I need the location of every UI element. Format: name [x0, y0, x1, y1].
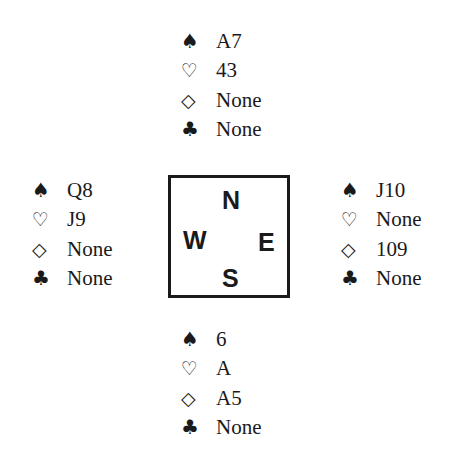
north-hearts-cards: 43	[216, 56, 237, 85]
east-spades-cards: J10	[376, 176, 405, 205]
north-hearts-row: ♡ 43	[181, 56, 262, 85]
north-spades-row: ♠ A7	[181, 27, 262, 56]
south-hand: ♠ 6 ♡ A ◇ A5 ♣ None	[181, 325, 262, 442]
east-hearts-row: ♡ None	[341, 205, 422, 234]
heart-outline-icon: ♡	[181, 56, 216, 85]
south-diamonds-row: ◇ A5	[181, 384, 262, 413]
south-diamonds-cards: A5	[216, 384, 242, 413]
east-clubs-row: ♣ None	[341, 264, 422, 293]
south-clubs-cards: None	[216, 413, 262, 442]
south-spades-row: ♠ 6	[181, 325, 262, 354]
north-diamonds-row: ◇ None	[181, 86, 262, 115]
club-icon: ♣	[181, 115, 216, 144]
heart-outline-icon: ♡	[32, 205, 67, 234]
north-clubs-row: ♣ None	[181, 115, 262, 144]
west-clubs-cards: None	[67, 264, 113, 293]
west-spades-cards: Q8	[67, 176, 93, 205]
spade-icon: ♠	[181, 27, 216, 56]
compass-west-label: W	[183, 228, 207, 253]
east-spades-row: ♠ J10	[341, 176, 422, 205]
west-clubs-row: ♣ None	[32, 264, 113, 293]
east-hand: ♠ J10 ♡ None ◇ 109 ♣ None	[341, 176, 422, 293]
club-icon: ♣	[32, 264, 67, 293]
east-hearts-cards: None	[376, 205, 422, 234]
west-hand: ♠ Q8 ♡ J9 ◇ None ♣ None	[32, 176, 113, 293]
spade-icon: ♠	[181, 325, 216, 354]
spade-icon: ♠	[341, 176, 376, 205]
spade-icon: ♠	[32, 176, 67, 205]
west-hearts-row: ♡ J9	[32, 205, 113, 234]
compass-box: N W E S	[168, 175, 290, 298]
east-diamonds-row: ◇ 109	[341, 235, 422, 264]
compass-north-label: N	[222, 188, 240, 213]
north-spades-cards: A7	[216, 27, 242, 56]
diamond-outline-icon: ◇	[181, 86, 216, 115]
club-icon: ♣	[341, 264, 376, 293]
diamond-outline-icon: ◇	[32, 235, 67, 264]
south-clubs-row: ♣ None	[181, 413, 262, 442]
diamond-outline-icon: ◇	[341, 235, 376, 264]
south-hearts-row: ♡ A	[181, 354, 262, 383]
north-hand: ♠ A7 ♡ 43 ◇ None ♣ None	[181, 27, 262, 144]
south-hearts-cards: A	[216, 354, 231, 383]
west-diamonds-cards: None	[67, 235, 113, 264]
west-spades-row: ♠ Q8	[32, 176, 113, 205]
diamond-outline-icon: ◇	[181, 384, 216, 413]
east-clubs-cards: None	[376, 264, 422, 293]
compass-east-label: E	[258, 230, 275, 255]
south-spades-cards: 6	[216, 325, 227, 354]
heart-outline-icon: ♡	[181, 354, 216, 383]
heart-outline-icon: ♡	[341, 205, 376, 234]
north-clubs-cards: None	[216, 115, 262, 144]
north-diamonds-cards: None	[216, 86, 262, 115]
west-hearts-cards: J9	[67, 205, 86, 234]
club-icon: ♣	[181, 413, 216, 442]
compass-south-label: S	[222, 266, 239, 291]
east-diamonds-cards: 109	[376, 235, 408, 264]
west-diamonds-row: ◇ None	[32, 235, 113, 264]
